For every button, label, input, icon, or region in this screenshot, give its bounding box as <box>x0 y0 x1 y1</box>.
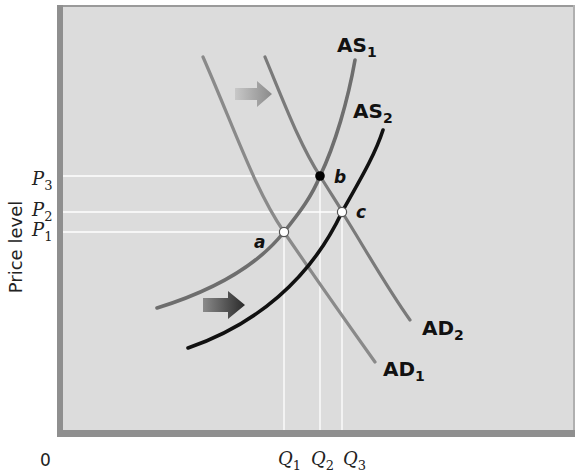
label-point-a: a <box>254 232 265 252</box>
y-axis-label: Price level <box>5 201 26 293</box>
point-b <box>315 171 325 181</box>
x-tick-q2: Q2 <box>311 448 334 473</box>
label-point-c: c <box>356 202 366 222</box>
y-axis <box>57 5 63 437</box>
plot-right-border <box>573 5 575 437</box>
ad-as-chart: a b c AS1 AS2 AD2 AD1 P3 P2 P1 Q1 Q2 Q3 … <box>0 0 580 475</box>
point-c <box>337 207 346 216</box>
x-tick-q3: Q3 <box>343 448 366 473</box>
origin-label: 0 <box>40 450 51 470</box>
x-axis <box>57 430 575 437</box>
point-a <box>279 227 288 236</box>
plot-top-border <box>57 5 575 7</box>
plot-area <box>57 5 575 437</box>
y-tick-p3: P3 <box>31 168 52 193</box>
x-tick-q1: Q1 <box>278 448 301 473</box>
label-point-b: b <box>334 167 346 187</box>
